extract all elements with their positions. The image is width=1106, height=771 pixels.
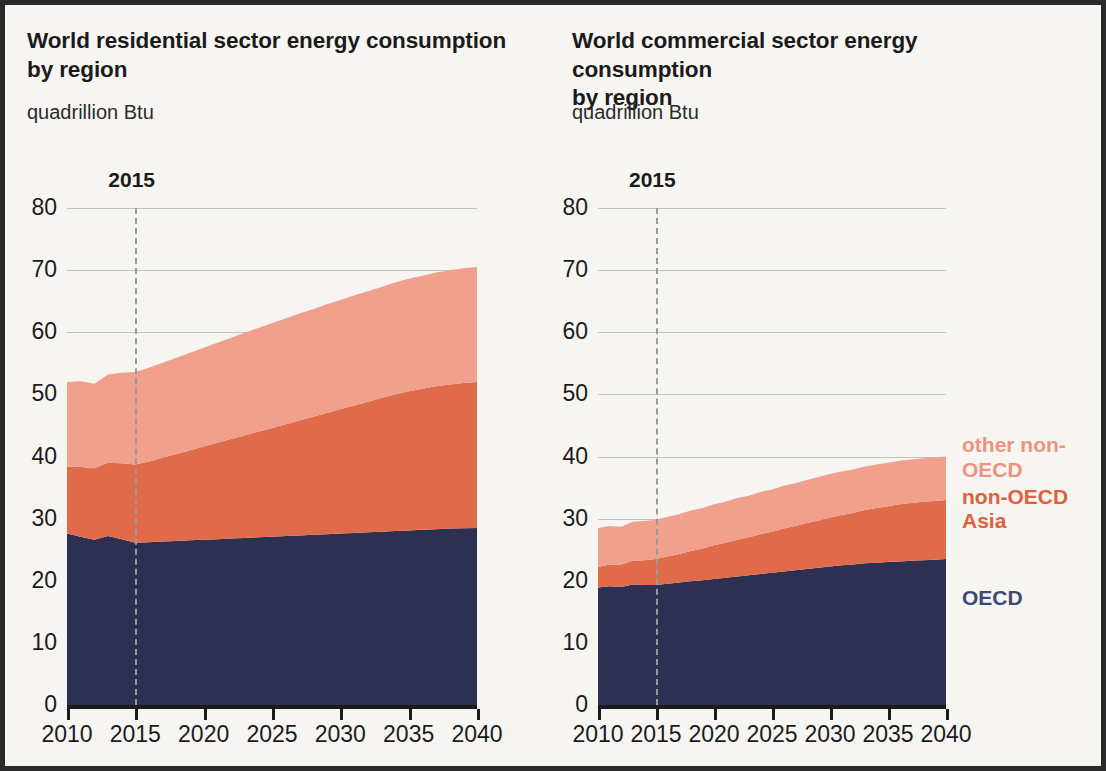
x-tick-2015 [135, 709, 138, 720]
residential-y-axis: 01020304050607080 [5, 208, 57, 705]
x-tick-2040 [477, 709, 480, 720]
legend-label-other-non-oecd-line2: OECD [962, 458, 1102, 483]
x-tick-label-2025: 2025 [235, 721, 309, 748]
y-tick-label-60: 60 [542, 320, 588, 343]
x-tick-2025 [272, 709, 275, 720]
y-tick-label-10: 10 [11, 631, 57, 654]
residential-plot-area [67, 208, 477, 705]
x-tick-label-2035: 2035 [372, 721, 446, 748]
residential-chart-subtitle: quadrillion Btu [27, 101, 154, 124]
y-tick-label-40: 40 [542, 445, 588, 468]
y-tick-label-60: 60 [11, 320, 57, 343]
y-tick-label-30: 30 [11, 507, 57, 530]
y-tick-label-80: 80 [11, 196, 57, 219]
x-tick-2015 [656, 709, 659, 720]
x-tick-2010 [598, 709, 601, 720]
commercial-plot-area [598, 208, 946, 705]
commercial-marker-year-label: 2015 [629, 168, 676, 192]
legend-label-other-non-oecd-line1: other non- [962, 433, 1102, 458]
legend-label-oecd: OECD [962, 586, 1102, 611]
commercial-title-line1: World commercial sector energy consumpti… [572, 28, 917, 82]
legend-item-oecd: OECD [962, 586, 1102, 611]
legend-item-non-oecd-asia: non-OECD Asia [962, 485, 1102, 535]
y-tick-label-30: 30 [542, 507, 588, 530]
x-tick-2020 [714, 709, 717, 720]
stacked-area-series [598, 208, 946, 705]
x-tick-label-2010: 2010 [30, 721, 104, 748]
x-tick-label-2040: 2040 [909, 721, 983, 748]
legend-label-non-oecd-asia-line1: non-OECD [962, 485, 1102, 510]
y-tick-label-40: 40 [11, 445, 57, 468]
legend-label-non-oecd-asia-line2: Asia [962, 509, 1102, 534]
residential-chart-title: World residential sector energy consumpt… [27, 27, 507, 84]
x-tick-2035 [409, 709, 412, 720]
x-tick-2035 [888, 709, 891, 720]
y-tick-label-50: 50 [11, 382, 57, 405]
x-tick-2030 [830, 709, 833, 720]
residential-title-line1: World residential sector energy consumpt… [27, 28, 506, 53]
x-tick-2040 [946, 709, 949, 720]
x-tick-label-2040: 2040 [440, 721, 514, 748]
residential-title-line2: by region [27, 57, 127, 82]
chart-legend: other non- OECD non-OECD Asia OECD [962, 433, 1102, 611]
stacked-area-series [67, 208, 477, 705]
x-tick-label-2015: 2015 [98, 721, 172, 748]
y-tick-label-20: 20 [11, 569, 57, 592]
y-tick-label-70: 70 [11, 258, 57, 281]
commercial-chart-panel: World commercial sector energy consumpti… [550, 5, 1106, 771]
area-series-oecd [67, 528, 477, 705]
y-tick-label-0: 0 [11, 693, 57, 716]
figure-frame: World residential sector energy consumpt… [0, 0, 1106, 771]
marker-line-2015 [135, 208, 137, 705]
y-tick-label-70: 70 [542, 258, 588, 281]
y-tick-label-20: 20 [542, 569, 588, 592]
y-tick-label-80: 80 [542, 196, 588, 219]
commercial-chart-title: World commercial sector energy consumpti… [572, 27, 1052, 113]
x-tick-2010 [67, 709, 70, 720]
y-tick-label-0: 0 [542, 693, 588, 716]
residential-marker-year-label: 2015 [108, 168, 155, 192]
residential-chart-panel: World residential sector energy consumpt… [5, 5, 550, 771]
x-tick-label-2030: 2030 [303, 721, 377, 748]
y-tick-label-10: 10 [542, 631, 588, 654]
x-tick-label-2020: 2020 [167, 721, 241, 748]
x-tick-2020 [204, 709, 207, 720]
legend-item-other-non-oecd: other non- OECD [962, 433, 1102, 483]
commercial-chart-subtitle: quadrillion Btu [572, 101, 699, 124]
commercial-y-axis: 01020304050607080 [548, 208, 588, 705]
x-tick-2030 [340, 709, 343, 720]
y-tick-label-50: 50 [542, 382, 588, 405]
marker-line-2015 [656, 208, 658, 705]
x-tick-2025 [772, 709, 775, 720]
